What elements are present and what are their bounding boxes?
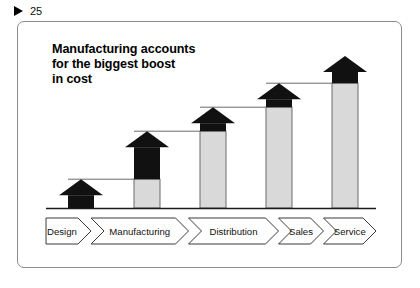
arrowhead-icon	[191, 107, 235, 123]
added-cost-segment	[332, 72, 358, 83]
carried-cost-segment	[200, 131, 226, 208]
arrow-chart-svg	[18, 22, 402, 268]
added-cost-segment	[266, 99, 292, 107]
play-triangle-icon	[14, 6, 23, 16]
arrowhead-icon	[59, 179, 103, 195]
slide-number: 25	[30, 6, 42, 17]
stage-arrow-design	[59, 179, 103, 208]
carried-cost-segment	[332, 83, 358, 208]
added-cost-segment	[200, 123, 226, 131]
arrowhead-icon	[125, 131, 169, 147]
slide-marker: 25	[14, 4, 42, 18]
added-cost-segment	[134, 147, 160, 179]
arrowhead-icon	[257, 83, 301, 99]
stage-arrow-manufacturing	[125, 131, 169, 208]
added-cost-segment	[68, 195, 94, 208]
arrowhead-icon	[323, 56, 367, 72]
carried-cost-segment	[134, 179, 160, 208]
carried-cost-segment	[266, 107, 292, 208]
arrow-chart	[18, 22, 402, 268]
stage-arrow-distribution	[191, 107, 235, 208]
stage-arrow-sales	[257, 83, 301, 208]
stage-arrow-service	[323, 56, 367, 208]
slide-frame: Manufacturing accounts for the biggest b…	[17, 21, 402, 268]
